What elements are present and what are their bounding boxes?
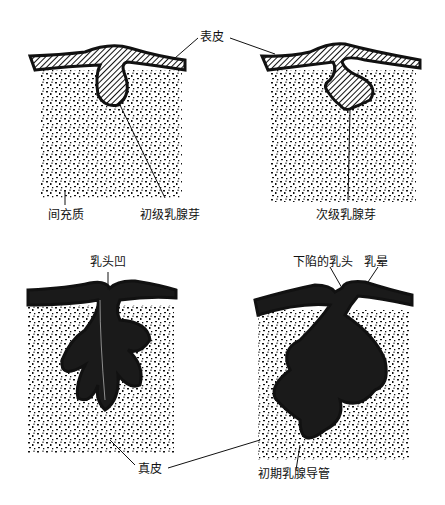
label-areola: 乳晕 (364, 255, 388, 269)
label-inverted-nipple: 下陷的乳头 (293, 255, 353, 269)
label-primary-bud: 初级乳腺芽 (140, 208, 200, 222)
label-secondary-bud: 次级乳腺芽 (316, 208, 376, 222)
panel-nipple-pit (28, 281, 176, 453)
label-mesenchyme: 间充质 (48, 208, 84, 222)
panel-secondary-bud (262, 44, 420, 202)
label-primitive-duct: 初期乳腺导管 (258, 467, 330, 481)
panel-inverted-nipple (255, 282, 412, 460)
panel-primary-bud (30, 46, 185, 198)
label-dermis: 真皮 (138, 462, 162, 476)
label-epidermis: 表皮 (200, 30, 224, 44)
diagram-canvas (0, 0, 445, 505)
label-nipple-pit: 乳头凹 (90, 255, 126, 269)
